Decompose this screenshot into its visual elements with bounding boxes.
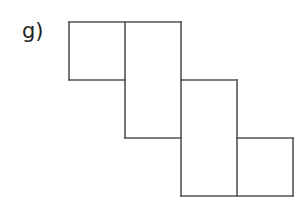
square-r2c3 (181, 80, 237, 136)
square-r3c4 (237, 138, 293, 194)
square-r2c2 (125, 80, 181, 136)
figure-canvas: g) (0, 0, 303, 211)
square-r1c1 (69, 22, 125, 78)
polyomino-figure (0, 0, 303, 211)
square-r3c3 (181, 138, 237, 194)
square-r1c2 (125, 22, 181, 78)
